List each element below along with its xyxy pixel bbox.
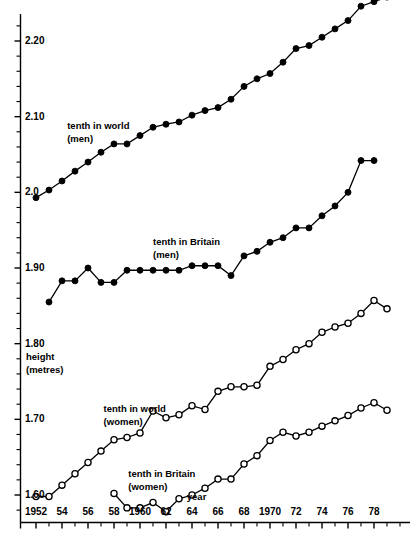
series-label-line1: tenth in world	[67, 120, 129, 131]
series-label-2: tenth in world(women)	[104, 402, 166, 428]
x-axis-tick-label: 58	[108, 506, 119, 517]
x-axis-title: year	[187, 490, 207, 503]
x-axis-tick-label: 1952	[25, 506, 47, 517]
x-axis-tick-label: 66	[212, 506, 223, 517]
x-axis-ticks	[21, 523, 401, 529]
y-axis-tick-label: 2.20	[25, 35, 65, 46]
axes	[21, 14, 411, 523]
series-label-line1: tenth in Britain	[153, 236, 220, 247]
x-axis-tick-label: 68	[238, 506, 249, 517]
x-axis-tick-label: 74	[316, 506, 327, 517]
x-axis-tick-label: 62	[160, 506, 171, 517]
x-axis-tick-label: 56	[82, 506, 93, 517]
y-axis-title-line2: (metres)	[26, 364, 64, 375]
x-axis-tick-label: 64	[186, 506, 197, 517]
y-axis-tick-label: 2.0	[25, 186, 65, 197]
x-axis-tick-label: 76	[342, 506, 353, 517]
series-label-3: tenth in Britain(women)	[128, 467, 195, 493]
x-axis-tick-label: 72	[290, 506, 301, 517]
y-axis-tick-label: 1.80	[25, 338, 65, 349]
series-2	[33, 297, 390, 499]
x-axis-tick-label: 1970	[259, 506, 281, 517]
series-label-line2: (women)	[128, 481, 167, 492]
series-label-1: tenth in Britain(men)	[153, 235, 220, 261]
x-axis-tick-label: 54	[56, 506, 67, 517]
x-axis-tick-label: 1960	[129, 506, 151, 517]
series-label-line2: (men)	[67, 133, 93, 144]
series-label-line2: (men)	[153, 249, 179, 260]
y-axis-title-line1: height	[26, 351, 55, 362]
y-axis-tick-label: 1.70	[25, 413, 65, 424]
series-label-line2: (women)	[104, 416, 143, 427]
x-axis-tick-label: 78	[368, 506, 379, 517]
series-1	[46, 158, 377, 305]
y-axis-title: height(metres)	[26, 350, 64, 376]
chart-figure: 1.601.701.801.902.02.102.201952545658196…	[0, 0, 412, 540]
series-label-0: tenth in world(men)	[67, 119, 129, 145]
series-label-line1: tenth in world	[104, 403, 166, 414]
y-axis-tick-label: 2.10	[25, 111, 65, 122]
series-0	[33, 0, 390, 201]
y-axis-tick-label: 1.60	[25, 489, 65, 500]
y-axis-tick-label: 1.90	[25, 262, 65, 273]
series-label-line1: tenth in Britain	[128, 468, 195, 479]
y-axis-ticks	[15, 26, 21, 510]
